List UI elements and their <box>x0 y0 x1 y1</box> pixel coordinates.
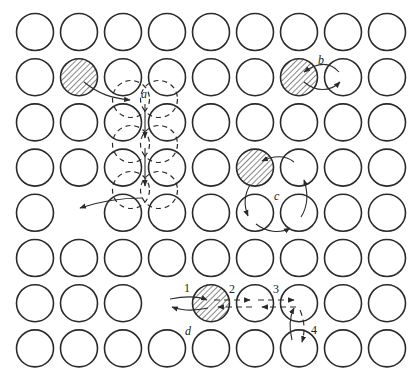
lattice-atom <box>105 59 142 96</box>
lattice-atom <box>237 104 274 141</box>
label-step3: 3 <box>273 282 279 296</box>
lattice-atom <box>281 104 318 141</box>
ghost-atom <box>141 172 178 209</box>
lattice-atom <box>149 240 186 277</box>
lattice-atom <box>193 240 230 277</box>
lattice-atom <box>369 330 406 367</box>
lattice-atom <box>281 149 318 186</box>
lattice-atom <box>17 149 54 186</box>
label-d: d <box>185 324 192 338</box>
hatched-atom <box>193 285 230 322</box>
lattice-atom <box>193 330 230 367</box>
label-step2: 2 <box>229 282 235 296</box>
lattice-atom <box>105 285 142 322</box>
lattice-atom <box>61 330 98 367</box>
lattice-atom <box>237 240 274 277</box>
label-step1: 1 <box>184 281 190 295</box>
lattice-atom <box>193 104 230 141</box>
lattice-atom <box>237 285 274 322</box>
lattice-atom <box>149 194 186 231</box>
lattice-atom <box>237 194 274 231</box>
label-b: b <box>318 53 324 67</box>
lattice-atom <box>149 149 186 186</box>
lattice-atom <box>193 59 230 96</box>
lattice-atom <box>105 14 142 51</box>
lattice-atom <box>149 330 186 367</box>
lattice-atom <box>237 59 274 96</box>
lattice-atom <box>17 285 54 322</box>
label-step4: 4 <box>311 323 317 337</box>
ghost-atom <box>141 126 178 163</box>
lattice-atom <box>325 285 362 322</box>
atom-lattice <box>17 14 406 367</box>
lattice-atom <box>325 59 362 96</box>
lattice-atom <box>17 104 54 141</box>
lattice-atom <box>193 14 230 51</box>
lattice-atom <box>17 330 54 367</box>
lattice-atom <box>149 14 186 51</box>
lattice-atom <box>105 104 142 141</box>
lattice-atom <box>237 330 274 367</box>
lattice-atom <box>17 59 54 96</box>
lattice-atom <box>149 104 186 141</box>
lattice-atom <box>369 285 406 322</box>
lattice-atom <box>369 240 406 277</box>
ghost-atom <box>113 172 150 209</box>
lattice-atom <box>17 240 54 277</box>
lattice-atom <box>281 240 318 277</box>
ghost-atom <box>113 126 150 163</box>
mechanism-a: a <box>80 81 178 209</box>
hatched-atom <box>237 149 274 186</box>
mechanism-d-step4-return <box>300 310 304 342</box>
lattice-atom <box>61 104 98 141</box>
lattice-atom <box>61 14 98 51</box>
lattice-atom <box>193 149 230 186</box>
label-c: c <box>274 189 280 203</box>
lattice-atom <box>17 14 54 51</box>
lattice-atom <box>325 240 362 277</box>
lattice-atom <box>325 104 362 141</box>
lattice-atom <box>193 194 230 231</box>
lattice-atom <box>61 149 98 186</box>
lattice-atom <box>369 14 406 51</box>
diffusion-mechanisms-diagram: a b c 1 2 3 4 d <box>0 0 419 377</box>
hatched-atom <box>61 59 98 96</box>
lattice-atom <box>369 149 406 186</box>
hatched-atom <box>281 59 318 96</box>
lattice-atom <box>325 149 362 186</box>
lattice-atom <box>369 194 406 231</box>
lattice-atom <box>325 194 362 231</box>
lattice-atom <box>105 240 142 277</box>
lattice-atom <box>237 14 274 51</box>
lattice-atom <box>281 194 318 231</box>
label-a: a <box>141 87 147 101</box>
lattice-atom <box>105 149 142 186</box>
mechanism-d-step4-arrow <box>290 308 294 340</box>
lattice-atom <box>61 240 98 277</box>
lattice-atom <box>369 59 406 96</box>
lattice-atom <box>369 104 406 141</box>
lattice-atom <box>281 285 318 322</box>
lattice-atom <box>325 14 362 51</box>
mechanism-c-arrow <box>245 185 250 216</box>
lattice-atom <box>105 330 142 367</box>
lattice-atom <box>17 194 54 231</box>
mechanism-d: 1 2 3 4 d <box>170 281 317 342</box>
lattice-atom <box>61 285 98 322</box>
lattice-atom <box>105 194 142 231</box>
lattice-atom <box>281 14 318 51</box>
lattice-atom <box>149 59 186 96</box>
lattice-atom <box>325 330 362 367</box>
